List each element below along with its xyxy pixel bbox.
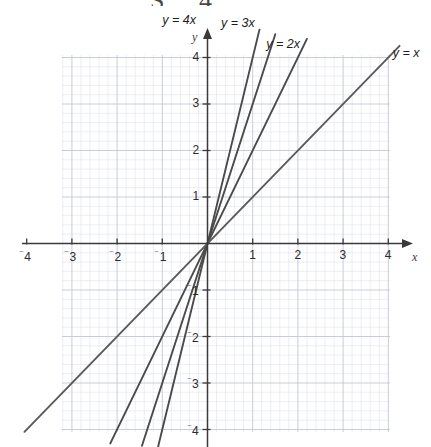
y-tick-label-1: 1 [193,189,200,203]
x-tick-label--2: ⁻2 [109,248,121,264]
coordinate-plane-svg [0,0,431,447]
x-tick-label-4: 4 [385,248,392,262]
y-tick-label-4: 4 [193,50,200,64]
y-tick-label--3: ⁻3 [187,375,199,391]
y-tick-label-2: 2 [193,143,200,157]
line-label-y-2x: y = 2x [266,37,300,51]
x-tick-label-3: 3 [340,248,347,262]
y-axis-label: y [192,30,197,45]
y-tick-label--1: ⁻1 [187,282,199,298]
y-tick-label--2: ⁻2 [187,329,199,345]
y-tick-label--4: ⁻4 [187,422,199,438]
x-tick-label--3: ⁻3 [64,248,76,264]
x-tick-label--1: ⁻1 [154,248,166,264]
x-axis-label: x [412,250,417,265]
x-tick-label--4: ⁻4 [19,248,31,264]
line-label-y-x: y = x [393,46,420,60]
x-tick-label-1: 1 [249,248,256,262]
line-label-y-3x: y = 3x [221,16,255,30]
line-label-y-4x: y = 4x [162,13,196,27]
x-tick-label-2: 2 [294,248,301,262]
chart-canvas: S 4 ⁻4⁻3⁻2⁻11234⁻4⁻3⁻2⁻11234xyy = 4xy = … [0,0,431,447]
y-tick-label-3: 3 [193,96,200,110]
